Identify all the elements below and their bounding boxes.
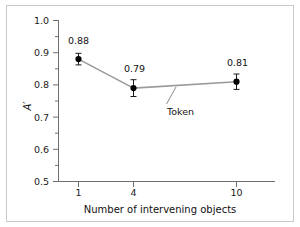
y-axis-title: A′ — [22, 101, 33, 112]
data-label-2: 0.79 — [124, 63, 145, 74]
x-tick-label-4: 4 — [130, 187, 136, 198]
y-tick-label-0.8: 0.8 — [34, 79, 49, 90]
data-point-2 — [130, 85, 136, 91]
y-tick-label-0.6: 0.6 — [34, 144, 49, 155]
y-tick-label-0.7: 0.7 — [34, 112, 49, 123]
y-axis-minor-ticks — [55, 37, 59, 166]
error-bars — [76, 53, 240, 96]
x-axis-title: Number of intervening objects — [84, 204, 237, 215]
x-tick-label-1: 1 — [75, 187, 81, 198]
data-label-1: 0.88 — [68, 35, 89, 46]
x-axis-ticks — [79, 182, 237, 188]
y-tick-label-0.5: 0.5 — [34, 176, 49, 187]
y-tick-label-1.0: 1.0 — [34, 15, 49, 26]
data-label-3: 0.81 — [227, 57, 248, 68]
x-tick-label-10: 10 — [230, 187, 242, 198]
data-point-1 — [75, 56, 81, 62]
figure-container: 1.0 0.9 0.8 0.7 0.6 0.5 A′ 1 4 10 Number… — [0, 0, 300, 227]
y-tick-label-0.9: 0.9 — [34, 47, 49, 58]
series-line-token — [79, 59, 237, 88]
data-point-3 — [233, 79, 239, 85]
annotation-leader-line — [167, 87, 177, 104]
line-chart: 1.0 0.9 0.8 0.7 0.6 0.5 A′ 1 4 10 Number… — [0, 0, 300, 227]
series-annotation-token: Token — [166, 106, 194, 117]
